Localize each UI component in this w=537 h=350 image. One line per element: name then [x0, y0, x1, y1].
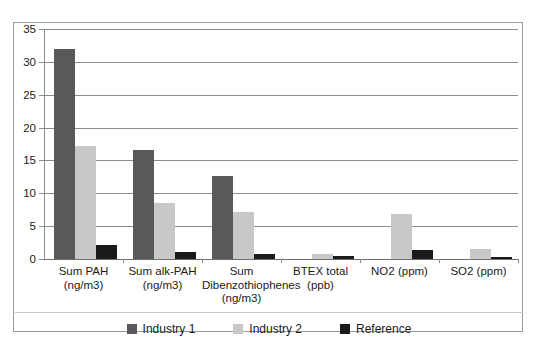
bar-group — [54, 29, 117, 259]
x-axis-tick — [123, 259, 124, 263]
x-axis-label-line: (ppb) — [281, 279, 360, 293]
bar-group — [449, 29, 512, 259]
bars-plot-area — [44, 29, 518, 259]
bar-industry-1 — [133, 150, 154, 259]
chart-plot-wrapper: 35302520151050 Sum PAH(ng/m3)Sum alk-PAH… — [14, 23, 524, 333]
chart-legend: Industry 1Industry 2Reference — [14, 319, 524, 339]
x-axis-label: BTEX total(ppb) — [281, 265, 360, 292]
x-axis-tick — [360, 259, 361, 263]
x-axis-label-line: (ng/m3) — [123, 279, 202, 293]
x-axis-category-labels: Sum PAH(ng/m3)Sum alk-PAH(ng/m3)SumDiben… — [44, 265, 518, 313]
legend-swatch-icon — [127, 324, 137, 334]
x-axis-label: Sum alk-PAH(ng/m3) — [123, 265, 202, 292]
bar-industry-2 — [154, 203, 175, 260]
bar-industry-2 — [75, 146, 96, 259]
y-axis-tick-label: 15 — [23, 154, 36, 166]
legend-label: Industry 2 — [249, 322, 302, 336]
bar-reference — [175, 252, 196, 259]
bar-industry-2 — [391, 214, 412, 259]
x-axis-label: SO2 (ppm) — [439, 265, 518, 279]
y-axis-tick — [39, 259, 44, 260]
y-axis-tick-label: 30 — [23, 56, 36, 68]
legend-swatch-icon — [340, 324, 350, 334]
y-axis-tick-label: 0 — [30, 253, 36, 265]
legend-item[interactable]: Industry 1 — [127, 322, 196, 336]
bar-reference — [491, 257, 512, 259]
y-axis-tick-label: 20 — [23, 122, 36, 134]
legend-separator — [15, 312, 523, 313]
x-axis-label: NO2 (ppm) — [360, 265, 439, 279]
bar-reference — [254, 254, 275, 259]
bar-group — [291, 29, 354, 259]
x-axis-label-line: (ng/m3) — [202, 292, 281, 306]
x-axis-tick — [518, 259, 519, 263]
x-axis-label: SumDibenzothiophenes(ng/m3) — [202, 265, 281, 306]
bar-group — [370, 29, 433, 259]
legend-label: Industry 1 — [143, 322, 196, 336]
x-axis-tick — [281, 259, 282, 263]
x-axis-label-line: NO2 (ppm) — [360, 265, 439, 279]
bar-reference — [96, 245, 117, 259]
bar-reference — [412, 250, 433, 259]
legend-item[interactable]: Industry 2 — [233, 322, 302, 336]
bar-industry-2 — [233, 212, 254, 259]
y-axis-tick-label: 35 — [23, 23, 36, 35]
x-axis-label-line: BTEX total — [281, 265, 360, 279]
bar-industry-1 — [54, 49, 75, 259]
bar-group — [133, 29, 196, 259]
x-axis-tick — [439, 259, 440, 263]
legend-swatch-icon — [233, 324, 243, 334]
bar-group — [212, 29, 275, 259]
x-axis-label-line: Sum alk-PAH — [123, 265, 202, 279]
x-axis-label-line: Sum PAH — [44, 265, 123, 279]
legend-item[interactable]: Reference — [340, 322, 411, 336]
x-axis-label-line: Sum — [202, 265, 281, 279]
bar-industry-1 — [212, 176, 233, 259]
x-axis-label-line: SO2 (ppm) — [439, 265, 518, 279]
y-axis-tick-label: 5 — [30, 220, 36, 232]
bar-industry-2 — [470, 249, 491, 259]
y-axis-labels: 35302520151050 — [14, 23, 36, 333]
bar-reference — [333, 256, 354, 259]
x-axis-label-line: (ng/m3) — [44, 279, 123, 293]
y-axis-tick-label: 10 — [23, 187, 36, 199]
bar-industry-2 — [312, 254, 333, 259]
x-axis-label: Sum PAH(ng/m3) — [44, 265, 123, 292]
y-axis-tick-label: 25 — [23, 89, 36, 101]
legend-label: Reference — [356, 322, 411, 336]
chart-frame: 35302520151050 Sum PAH(ng/m3)Sum alk-PAH… — [13, 22, 523, 332]
x-axis-label-line: Dibenzothiophenes — [202, 279, 281, 293]
x-axis-tick — [202, 259, 203, 263]
